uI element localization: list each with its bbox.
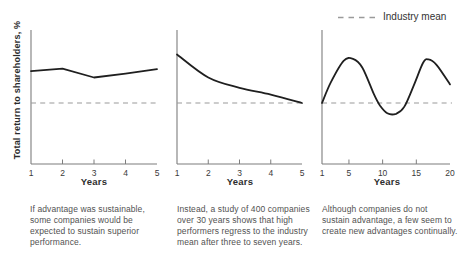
legend-label: Industry mean	[383, 11, 446, 22]
panel3-x-axis-title: Years	[374, 176, 400, 187]
panel1-series-line	[31, 69, 157, 78]
panel3-x-tick-label: 5	[347, 168, 352, 178]
panel2-x-tick-label: 1	[175, 168, 180, 178]
panel2-x-axis-title: Years	[227, 176, 253, 187]
panel1-x-axis-title: Years	[81, 176, 107, 187]
panel1-x-tick-label: 5	[155, 168, 160, 178]
panel3-x-tick-label: 20	[445, 168, 455, 178]
panel2-caption: Instead, a study of 400 companies over 3…	[177, 204, 323, 248]
panel1-x-tick-label: 2	[60, 168, 65, 178]
panel1-caption: If advantage was sustainable, some compa…	[30, 204, 175, 248]
y-axis-title: Total return to shareholders, %	[12, 21, 22, 160]
panel1-x-tick-label: 1	[29, 168, 34, 178]
panel3-x-tick-label: 15	[412, 168, 422, 178]
panel1-x-tick-label: 4	[123, 168, 128, 178]
panel3-series-line	[322, 58, 450, 114]
panel2-x-tick-label: 4	[268, 168, 273, 178]
panel3-x-tick-label: 1	[320, 168, 325, 178]
panel2-x-tick-label: 5	[300, 168, 305, 178]
panel2-series-line	[177, 54, 302, 103]
panel3-caption: Although companies do not sustain advant…	[322, 204, 468, 237]
panel2-x-tick-label: 2	[206, 168, 211, 178]
exhibit-figure: 123451234515101520 Total return to share…	[0, 0, 469, 256]
